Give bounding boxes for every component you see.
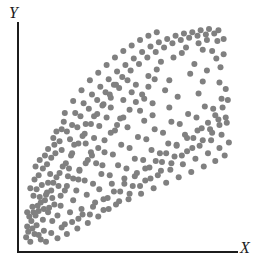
data-point — [88, 121, 94, 127]
data-point — [186, 35, 192, 41]
data-point — [178, 37, 184, 43]
data-point — [91, 135, 97, 141]
data-point — [75, 216, 81, 222]
data-point — [206, 26, 212, 32]
data-point — [224, 120, 230, 126]
data-point — [219, 96, 225, 102]
data-point — [119, 74, 125, 80]
data-point — [214, 38, 220, 44]
data-point — [80, 211, 86, 217]
data-point — [75, 177, 81, 183]
data-point — [133, 99, 139, 105]
data-point — [185, 111, 191, 117]
data-point — [33, 163, 39, 169]
data-point — [153, 49, 159, 55]
data-point — [205, 150, 211, 156]
data-point — [62, 221, 68, 227]
data-point — [207, 126, 213, 132]
data-point — [92, 199, 98, 205]
data-point — [223, 86, 229, 92]
data-point — [216, 145, 222, 151]
data-point — [114, 122, 120, 128]
x-axis-label: X — [240, 240, 250, 256]
data-point — [98, 171, 104, 177]
data-point — [99, 102, 105, 108]
data-point — [200, 47, 206, 53]
data-point — [49, 195, 55, 201]
data-point — [39, 182, 45, 188]
data-point — [138, 191, 144, 197]
data-point — [66, 166, 72, 172]
data-point — [41, 228, 47, 234]
data-point — [67, 209, 73, 215]
data-point — [154, 66, 160, 72]
data-point — [187, 71, 193, 77]
data-point — [81, 100, 87, 106]
data-point — [90, 181, 96, 187]
scatter-plot-figure: Y X — [0, 0, 262, 267]
data-point — [62, 110, 68, 116]
data-point — [175, 94, 181, 100]
data-point — [193, 114, 199, 120]
data-point — [158, 59, 164, 65]
data-point — [196, 90, 202, 96]
data-point — [36, 172, 42, 178]
data-point — [188, 169, 194, 175]
data-point — [159, 159, 165, 165]
data-point — [141, 118, 147, 124]
data-point — [143, 136, 149, 142]
data-point — [181, 30, 187, 36]
data-point — [174, 142, 180, 148]
data-point — [96, 186, 102, 192]
data-point — [37, 194, 43, 200]
data-point — [106, 76, 112, 82]
data-point — [27, 185, 33, 191]
data-point — [35, 203, 41, 209]
data-point — [189, 145, 195, 151]
data-point — [129, 89, 135, 95]
data-point — [137, 108, 143, 114]
data-point — [122, 62, 128, 68]
data-point — [77, 113, 83, 119]
data-point — [209, 48, 215, 54]
data-point — [24, 209, 30, 215]
data-point — [147, 175, 153, 181]
data-point — [169, 40, 175, 46]
data-point — [215, 117, 221, 123]
data-point — [88, 149, 94, 155]
data-point — [219, 132, 225, 138]
data-point — [43, 239, 49, 245]
data-point — [205, 120, 211, 126]
data-point — [135, 134, 141, 140]
data-point — [121, 181, 127, 187]
data-point — [104, 62, 110, 68]
data-point — [189, 29, 195, 35]
data-point — [204, 37, 210, 43]
data-point — [190, 135, 196, 141]
data-point — [176, 174, 182, 180]
data-point — [58, 203, 64, 209]
data-point — [27, 239, 33, 245]
data-point — [192, 156, 198, 162]
data-point — [61, 119, 67, 125]
data-point — [71, 142, 77, 148]
data-point — [202, 103, 208, 109]
data-point — [129, 42, 135, 48]
data-point — [45, 180, 51, 186]
data-point — [95, 214, 101, 220]
data-point — [133, 82, 139, 88]
data-point — [29, 226, 35, 232]
data-point — [164, 36, 170, 42]
data-point — [65, 173, 71, 179]
data-point — [127, 107, 133, 113]
data-point — [141, 96, 147, 102]
data-point — [177, 121, 183, 127]
data-point — [137, 183, 143, 189]
data-point — [82, 178, 88, 184]
data-point — [225, 97, 231, 103]
data-point — [191, 61, 197, 67]
data-point — [118, 142, 124, 148]
data-point — [70, 175, 76, 181]
data-point — [152, 126, 158, 132]
data-point — [208, 137, 214, 143]
